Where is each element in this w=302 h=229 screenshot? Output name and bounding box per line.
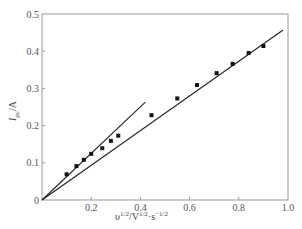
x-label-mid: /V	[129, 211, 139, 222]
data-point	[65, 172, 69, 176]
chart-plot: 00.10.20.30.40.5 0.20.40.60.81.0	[0, 0, 302, 229]
x-tick-label: 0.6	[183, 202, 196, 213]
fit-line	[42, 102, 145, 200]
data-point	[109, 139, 113, 143]
y-label-sub: pc	[13, 111, 21, 118]
x-label-sup1: 1/2	[120, 210, 129, 218]
y-tick-label: 0.4	[27, 46, 40, 57]
y-tick-label: 0.1	[27, 157, 40, 168]
x-tick-label: 0.8	[233, 202, 246, 213]
data-point	[175, 96, 179, 100]
y-tick-label: 0.5	[27, 9, 40, 20]
data-point	[261, 44, 265, 48]
y-axis-label: Ipc/A	[2, 86, 26, 136]
x-label-sup3: −1/2	[155, 210, 168, 218]
data-point	[247, 51, 251, 55]
data-point	[100, 146, 104, 150]
y-tick-label: 0	[34, 195, 39, 206]
data-point	[116, 134, 120, 138]
data-point	[215, 71, 219, 75]
x-label-sup2: 1/2	[139, 210, 148, 218]
data-point	[82, 158, 86, 162]
y-label-unit: /A	[7, 101, 18, 111]
x-label-mid2: ·s	[148, 211, 155, 222]
data-point	[149, 113, 153, 117]
data-point	[231, 62, 235, 66]
y-tick-label: 0.2	[27, 120, 40, 131]
x-axis-label: υ1/2/V1/2·s−1/2	[115, 210, 168, 222]
x-tick-label: 1.0	[282, 202, 295, 213]
y-tick-label: 0.3	[27, 83, 40, 94]
fit-lines	[42, 30, 283, 200]
data-point	[89, 152, 93, 156]
data-point	[74, 164, 78, 168]
data-point	[195, 83, 199, 87]
plot-frame	[42, 14, 288, 200]
y-label-base: I	[7, 118, 18, 121]
fit-line	[42, 30, 283, 200]
x-tick-label: 0.2	[85, 202, 98, 213]
